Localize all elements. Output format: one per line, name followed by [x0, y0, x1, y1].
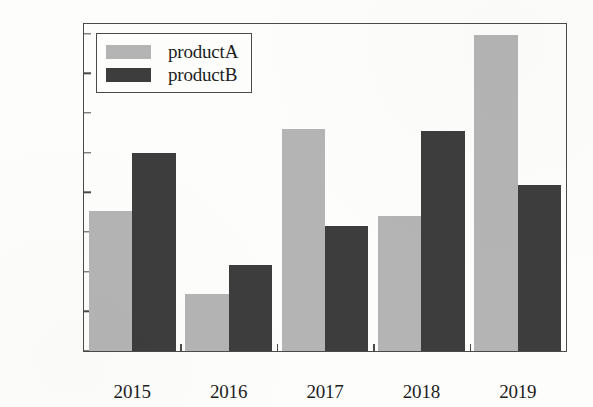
bar-productB-2016	[229, 265, 272, 351]
plot-area: 0500001000001500002000002500003000003500…	[83, 23, 567, 352]
x-tick-mark	[277, 344, 278, 351]
x-tick-mark	[373, 344, 374, 351]
bar-productB-2017	[325, 226, 368, 351]
bar-productA-2017	[282, 129, 325, 351]
legend-label-productA: productA	[168, 42, 238, 61]
x-tick-label: 2017	[306, 381, 343, 403]
x-tick-mark	[470, 344, 471, 351]
bar-productB-2018	[421, 131, 464, 351]
x-tick-mark	[180, 344, 181, 351]
bar-chart-figure: 0500001000001500002000002500003000003500…	[0, 0, 593, 407]
bar-productB-2019	[518, 185, 561, 351]
y-tick-mark	[84, 192, 91, 193]
x-tick-label: 2018	[403, 381, 440, 403]
x-tick-label: 2019	[499, 381, 536, 403]
bar-productA-2019	[474, 35, 517, 351]
y-tick-mark	[84, 73, 91, 74]
y-tick-mark	[84, 152, 91, 153]
legend-swatch-productA	[106, 45, 151, 59]
legend: productA productB	[96, 33, 252, 93]
legend-item-productA: productA	[106, 40, 238, 63]
bar-productA-2016	[185, 294, 228, 351]
y-tick-mark	[84, 112, 91, 113]
x-tick-label: 2015	[114, 381, 151, 403]
bar-productA-2015	[89, 211, 132, 351]
bar-productB-2015	[132, 153, 175, 351]
legend-item-productB: productB	[106, 63, 238, 86]
bar-productA-2018	[378, 216, 421, 351]
legend-label-productB: productB	[168, 65, 237, 84]
y-tick-mark	[84, 33, 91, 34]
legend-swatch-productB	[106, 68, 151, 82]
x-tick-label: 2016	[210, 381, 247, 403]
